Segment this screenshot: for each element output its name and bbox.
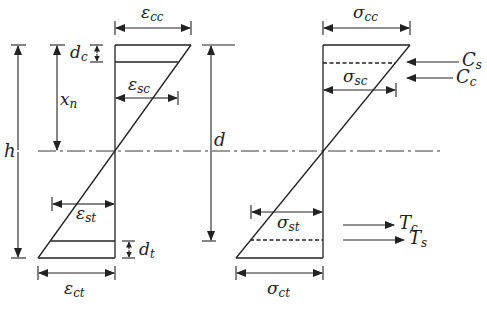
d-label: d (214, 131, 226, 149)
h-label: h (4, 142, 16, 160)
eps-ct-label: εct (64, 280, 85, 299)
xn-label: xn (60, 91, 77, 110)
dt-label: dt (139, 241, 155, 260)
ts-label: Ts (409, 229, 427, 249)
sig-sc-label: σsc (343, 68, 368, 87)
dc-dimension (90, 45, 103, 62)
dc-label: dc (70, 44, 88, 63)
sig-ct-label: σct (267, 280, 290, 299)
cc-label: Cc (456, 68, 477, 88)
sig-ct-dimension (236, 266, 323, 280)
strain-diagram (38, 45, 191, 258)
stress-diagram (236, 45, 410, 258)
eps-ct-dimension (38, 266, 115, 280)
sig-cc-label: σcc (353, 4, 378, 23)
eps-st-label: εst (76, 205, 96, 224)
dt-dimension (122, 241, 135, 258)
eps-cc-label: εcc (141, 4, 164, 23)
eps-sc-label: εsc (128, 76, 150, 95)
sig-st-label: σst (277, 214, 300, 233)
